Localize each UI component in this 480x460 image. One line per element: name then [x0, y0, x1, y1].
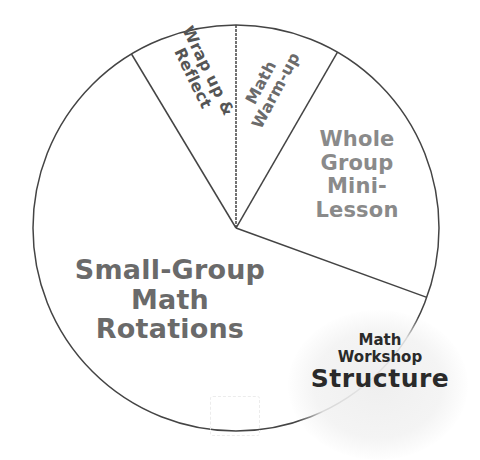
title-line-2: Workshop — [300, 349, 460, 366]
faint-logo-placeholder — [210, 396, 260, 436]
title-line-3: Structure — [300, 365, 460, 393]
diagram-title: Math Workshop Structure — [300, 332, 460, 393]
segment-label-whole-group-mini-lesson: Whole Group Mini- Lesson — [302, 128, 412, 222]
segment-label-small-group-rotations: Small-Group Math Rotations — [60, 255, 280, 344]
title-line-1: Math — [300, 332, 460, 349]
math-workshop-diagram: Wrap up & Reflect Math Warm-up Whole Gro… — [0, 0, 480, 460]
